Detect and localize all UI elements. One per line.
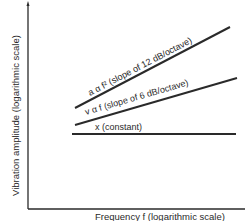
displacement-line-label: x (constant) [95,122,142,132]
x-axis-label: Frequency f (logarithmic scale) [95,211,225,221]
vibration-diagram: Vibration amplitude (logarithmic scale) … [0,0,245,221]
y-axis-label: Vibration amplitude (logarithmic scale) [10,35,21,196]
y-axis-arrow-icon [27,1,30,6]
